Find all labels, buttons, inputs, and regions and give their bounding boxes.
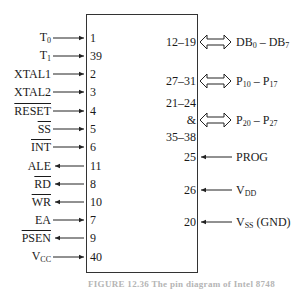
signal-label-t1: T1 — [40, 48, 51, 62]
figure-caption: FIGURE 12.36 The pin diagram of Intel 87… — [88, 279, 275, 289]
pin-number: 20 — [184, 215, 196, 229]
signal-label-vcc: VCC — [32, 249, 51, 263]
pin-number: 21–24 — [166, 96, 196, 110]
pin-number: 2 — [90, 67, 96, 81]
pin-number: 6 — [90, 140, 96, 154]
pin-number: 12–19 — [166, 35, 196, 49]
signal-label-wr: WR — [32, 195, 51, 209]
pin-number: 5 — [90, 122, 96, 136]
bus-arrow-p1 — [200, 74, 231, 88]
pin-number: 39 — [90, 49, 102, 63]
signal-label-ale: ALE — [28, 159, 51, 173]
bus-arrow-db — [200, 35, 231, 49]
pin-number: 26 — [184, 183, 196, 197]
signal-label-rd: RD — [34, 177, 51, 191]
pin-number: 3 — [90, 85, 96, 99]
signal-label-p2: P20 – P27 — [236, 113, 277, 127]
signal-label-p1: P10 – P17 — [236, 74, 277, 88]
signal-label-ea: EA — [35, 213, 51, 227]
pin-number: 27–31 — [166, 74, 196, 88]
signal-label-prog: PROG — [236, 150, 268, 164]
signal-label-ss: SS — [38, 122, 51, 136]
signal-label-t0: T0 — [40, 30, 51, 44]
signal-label-db: DB0 – DB7 — [236, 35, 289, 49]
signal-label-reset: RESET — [14, 104, 51, 118]
pin-number: 1 — [90, 31, 96, 45]
pin-number: 11 — [90, 159, 102, 173]
pin-number: 7 — [90, 213, 96, 227]
signal-label-psen: PSEN — [22, 231, 51, 245]
signal-label-int: INT — [31, 140, 51, 154]
pin-number: 25 — [184, 150, 196, 164]
signal-label-vss: VSS (GND) — [236, 215, 291, 229]
bus-arrow-p2 — [200, 113, 231, 127]
signal-label-vdd: VDD — [236, 183, 256, 197]
pin-number: 35–38 — [166, 130, 196, 144]
pin-number: & — [187, 113, 196, 127]
pin-number: 10 — [90, 195, 102, 209]
pin-number: 4 — [90, 104, 96, 118]
pin-number: 40 — [90, 250, 102, 264]
pin-number: 8 — [90, 177, 96, 191]
pin-number: 9 — [90, 231, 96, 245]
signal-label-xtal2: XTAL2 — [14, 85, 51, 99]
signal-label-xtal1: XTAL1 — [14, 67, 51, 81]
